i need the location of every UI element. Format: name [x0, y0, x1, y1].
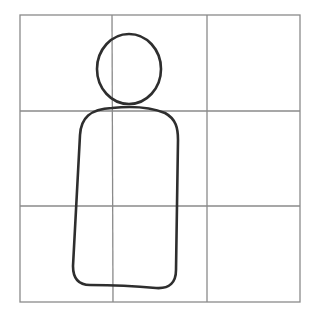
person-figure [73, 34, 178, 288]
head-circle [97, 34, 161, 104]
sketch-canvas [0, 0, 313, 314]
grid-vertical-line-1 [112, 15, 113, 302]
body-shape [73, 107, 178, 288]
